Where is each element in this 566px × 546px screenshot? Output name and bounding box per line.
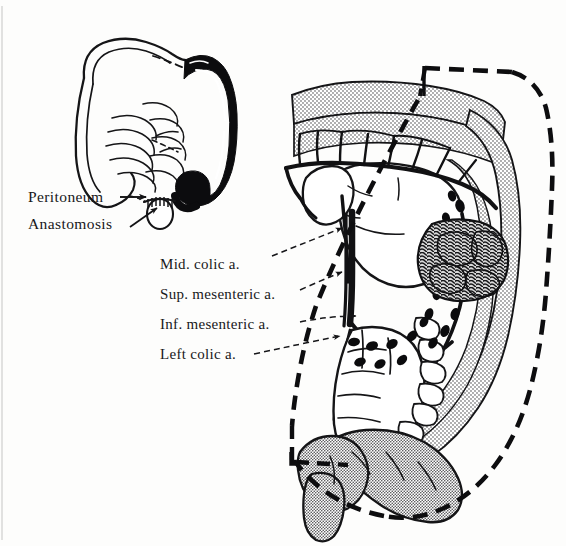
peritoneum-label-text: Peritoneum [28,188,103,205]
inf-mesenteric-label-text: Inf. mesenteric a. [160,316,270,332]
left-hemicolectomy-resection-field [286,66,552,541]
label-peritoneum: Peritoneum [28,188,146,205]
inset-resected-segment [176,55,238,206]
sup-mesenteric-label-text: Sup. mesenteric a. [160,286,275,302]
left-colic-leader-line [254,336,340,354]
mid-colic-label-text: Mid. colic a. [160,256,240,272]
rectosigmoid-stump [303,473,344,541]
artery-labels: Mid. colic a. Sup. mesenteric a. Inf. me… [160,228,356,362]
sup-mesenteric-leader-line [300,272,342,290]
label-anastomosis: Anastomosis [28,208,157,232]
illustration-canvas: Peritoneum Anastomosis [0,0,566,546]
medical-illustration-figure: Peritoneum Anastomosis [0,0,566,546]
tumor-mass [418,219,508,301]
mid-colic-leader-line [272,228,342,256]
left-colic-label-text: Left colic a. [160,346,236,362]
anastomosis-label-text: Anastomosis [28,215,113,232]
